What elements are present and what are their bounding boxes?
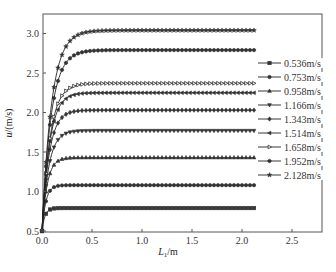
circle-marker xyxy=(164,183,167,186)
velocity-profile-chart: 0.00.51.01.52.02.5 0.51.01.52.02.53.0 0.… xyxy=(0,0,336,272)
triangle-right-marker xyxy=(253,81,256,85)
hexagon-marker xyxy=(268,159,271,163)
triangle-left-marker xyxy=(132,91,135,95)
diamond-marker xyxy=(132,108,135,112)
hexagon-marker xyxy=(120,48,123,52)
square-marker xyxy=(220,206,223,209)
y-tick-label: 1.5 xyxy=(27,147,40,158)
star-marker xyxy=(244,28,249,32)
star-marker xyxy=(204,28,209,32)
star-marker xyxy=(168,28,173,32)
diamond-marker xyxy=(204,108,207,112)
square-marker xyxy=(108,206,111,209)
square-marker xyxy=(204,206,207,209)
legend: 0.536m/s0.753m/s0.958m/s1.166m/s1.343m/s… xyxy=(257,58,333,181)
triangle-left-marker xyxy=(200,91,203,95)
legend-item: 1.343m/s xyxy=(257,114,333,125)
triangle-left-marker xyxy=(100,91,103,95)
hexagon-marker xyxy=(140,48,143,52)
square-marker xyxy=(248,206,251,209)
diamond-marker xyxy=(220,108,223,112)
diamond-marker xyxy=(184,108,187,112)
square-marker xyxy=(64,206,67,209)
star-marker xyxy=(60,53,65,57)
circle-marker xyxy=(128,183,131,186)
circle-marker xyxy=(152,183,155,186)
square-marker xyxy=(164,206,167,209)
y-tick-label: 2.0 xyxy=(27,107,40,118)
y-axis-label: u/(m/s) xyxy=(3,109,15,138)
square-marker xyxy=(228,206,231,209)
circle-marker xyxy=(112,183,115,186)
hexagon-marker xyxy=(148,48,151,52)
diamond-marker xyxy=(128,108,131,112)
square-marker xyxy=(140,206,143,209)
hexagon-marker xyxy=(224,48,227,52)
square-marker xyxy=(48,208,51,211)
diamond-marker xyxy=(136,108,139,112)
star-marker xyxy=(136,28,141,32)
diamond-marker xyxy=(160,108,163,112)
square-marker xyxy=(160,206,163,209)
triangle-right-marker xyxy=(57,102,60,106)
triangle-left-marker xyxy=(136,91,139,95)
star-marker xyxy=(116,28,121,32)
x-tick-label: 1.5 xyxy=(186,235,199,246)
diamond-marker xyxy=(172,108,175,112)
legend-label: 1.514m/s xyxy=(284,128,321,139)
star-marker xyxy=(152,28,157,32)
diamond-marker xyxy=(148,108,151,112)
hexagon-marker xyxy=(124,48,127,52)
diamond-marker xyxy=(92,108,95,112)
triangle-left-marker xyxy=(160,91,163,95)
triangle-right-marker xyxy=(241,81,244,85)
triangle-left-marker xyxy=(72,93,75,97)
triangle-left-marker xyxy=(156,91,159,95)
circle-marker xyxy=(192,183,195,186)
triangle-left-marker xyxy=(192,91,195,95)
hexagon-marker xyxy=(152,48,155,52)
star-marker xyxy=(108,28,113,32)
legend-label: 1.952m/s xyxy=(284,156,321,167)
star-marker xyxy=(160,28,165,32)
star-marker xyxy=(112,28,117,32)
hexagon-marker xyxy=(132,48,135,52)
square-marker xyxy=(84,206,87,209)
hexagon-marker xyxy=(208,48,211,52)
triangle-right-marker xyxy=(101,81,104,85)
hexagon-marker xyxy=(248,48,251,52)
triangle-left-marker xyxy=(196,91,199,95)
circle-marker xyxy=(248,183,251,186)
x-tick-label: 0.0 xyxy=(36,235,49,246)
triangle-left-marker xyxy=(212,91,215,95)
legend-label: 0.536m/s xyxy=(284,58,321,69)
star-marker xyxy=(104,28,109,32)
triangle-left-marker xyxy=(184,91,187,95)
hexagon-marker xyxy=(188,48,191,52)
star-marker xyxy=(252,28,257,32)
triangle-right-marker xyxy=(229,81,232,85)
triangle-right-marker xyxy=(249,81,252,85)
circle-marker xyxy=(84,183,87,186)
legend-item: 0.753m/s xyxy=(257,72,333,83)
triangle-right-marker xyxy=(221,81,224,85)
star-marker xyxy=(224,28,229,32)
star-marker xyxy=(92,29,97,33)
square-marker xyxy=(212,206,215,209)
square-marker xyxy=(100,206,103,209)
legend-item: 1.952m/s xyxy=(257,156,333,167)
diamond-marker xyxy=(104,108,107,112)
square-marker xyxy=(216,206,219,209)
circle-marker xyxy=(148,183,151,186)
hexagon-marker xyxy=(232,48,235,52)
diamond-marker xyxy=(64,112,67,116)
square-marker xyxy=(96,206,99,209)
triangle-left-marker xyxy=(228,91,231,95)
triangle-left-marker xyxy=(252,91,255,95)
star-marker xyxy=(132,28,137,32)
circle-marker xyxy=(56,184,59,187)
triangle-right-marker xyxy=(237,81,240,85)
diamond-marker xyxy=(248,108,251,112)
star-marker xyxy=(96,29,101,33)
triangle-left-marker xyxy=(236,91,239,95)
